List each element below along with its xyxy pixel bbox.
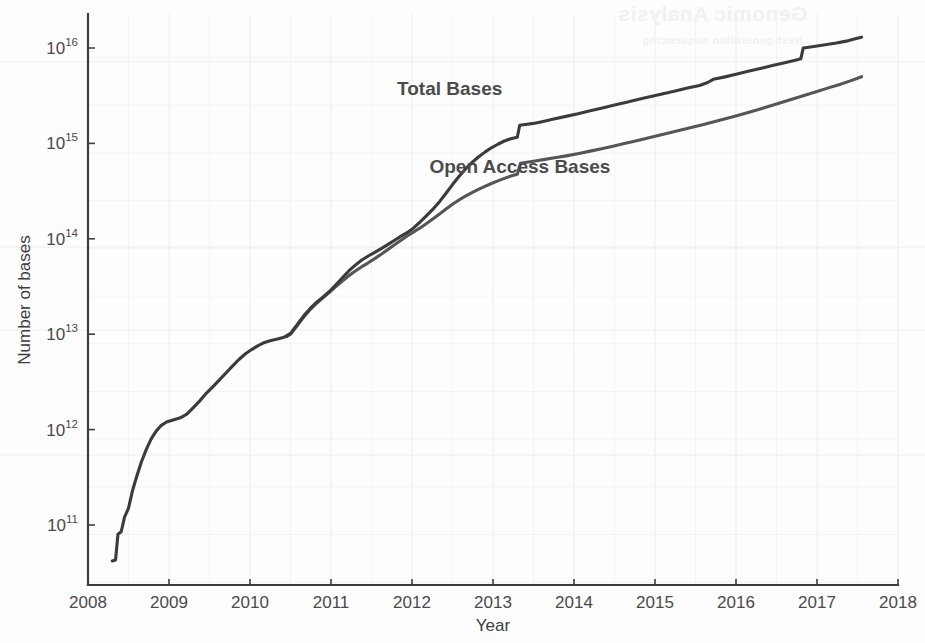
x-tick-label: 2015	[636, 593, 674, 612]
x-tick-label: 2018	[879, 593, 917, 612]
x-tick-label: 2017	[798, 593, 836, 612]
x-tick-label: 2012	[393, 593, 431, 612]
x-tick-label: 2014	[555, 593, 593, 612]
x-tick-label: 2009	[150, 593, 188, 612]
x-tick-label: 2010	[231, 593, 269, 612]
line-chart: 101110121013101410151016 200820092010201…	[0, 0, 925, 643]
x-tick-label: 2016	[717, 593, 755, 612]
series-line-total-bases	[112, 37, 861, 561]
y-tick-label: 1012	[46, 418, 78, 440]
y-tick-label: 1011	[47, 513, 78, 535]
background-grid	[88, 14, 898, 585]
figure-container: Genomic AnalysisNext-generation sequenci…	[0, 0, 925, 643]
series-label-open-access-bases: Open Access Bases	[429, 156, 610, 177]
x-tick-label: 2008	[69, 593, 107, 612]
y-tick-label: 1014	[46, 227, 78, 249]
bleed-through-rules	[0, 62, 925, 455]
y-tick-label: 1015	[46, 131, 78, 153]
x-axis-title: Year	[476, 616, 511, 635]
y-axis-title: Number of bases	[15, 235, 34, 364]
x-tick-label: 2011	[313, 593, 350, 612]
y-tick-label: 1016	[46, 36, 78, 58]
series-label-total-bases: Total Bases	[397, 78, 502, 99]
x-tick-label: 2013	[474, 593, 512, 612]
y-tick-label: 1013	[46, 322, 78, 344]
